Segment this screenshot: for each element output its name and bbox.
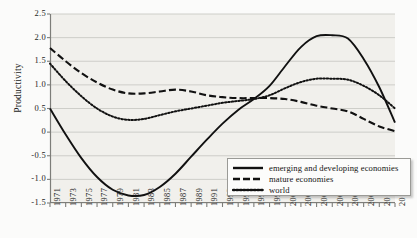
legend-key-dashed-icon (232, 174, 264, 184)
y-tick-label: -1.0 (22, 173, 46, 183)
y-tick-label: -1.5 (22, 197, 46, 207)
y-tick-label: -0.5 (22, 150, 46, 160)
productivity-line-chart: Productivity 2.52.01.51.00.50-0.5-1.0-1.… (0, 0, 417, 238)
legend-key-solid-icon (232, 163, 264, 173)
y-axis-tick-labels: 2.52.01.51.00.50-0.5-1.0-1.5 (22, 0, 46, 238)
legend-item-world: world (232, 184, 406, 195)
legend-item-emerging: emerging and developing economies (232, 162, 406, 173)
legend-label-world: world (269, 185, 290, 195)
series-line-dashed (50, 48, 395, 131)
legend-label-emerging: emerging and developing economies (269, 163, 398, 173)
y-tick-label: 2.0 (22, 32, 46, 42)
legend-item-mature: mature economies (232, 173, 406, 184)
legend-key-dotted-icon (232, 185, 264, 195)
y-tick-label: 1.5 (22, 55, 46, 65)
chart-legend: emerging and developing economies mature… (227, 158, 411, 196)
y-tick-label: 0.5 (22, 103, 46, 113)
series-line-dotted (50, 64, 395, 120)
y-tick-label: 2.5 (22, 8, 46, 18)
y-tick-label: 0 (22, 126, 46, 136)
legend-label-mature: mature economies (269, 174, 333, 184)
y-tick-label: 1.0 (22, 79, 46, 89)
